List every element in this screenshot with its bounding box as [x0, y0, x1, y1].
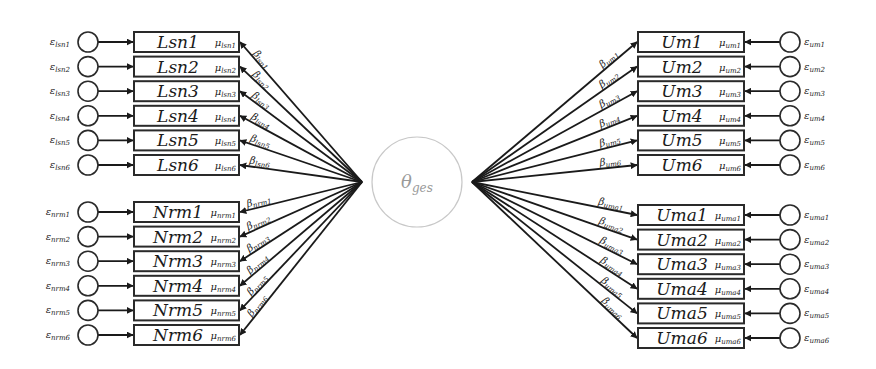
error-label: εnrm2	[46, 231, 71, 244]
error-label: εuma3	[804, 258, 830, 271]
indicator-label: Um3	[661, 81, 702, 101]
error-circle	[78, 32, 98, 52]
indicator-nrm3: Nrm3μnrm3εnrm3	[46, 251, 239, 271]
error-label: εnrm1	[46, 206, 70, 219]
error-label: εlsn3	[50, 85, 71, 98]
error-circle	[78, 202, 98, 222]
indicator-nrm4: Nrm4μnrm4εnrm4	[46, 276, 239, 296]
loading-label: βnrm6	[244, 292, 271, 321]
error-label: εuma4	[804, 283, 829, 296]
loading-label: βuma5	[597, 274, 626, 301]
indicator-um5: Um5μum5εum5	[638, 130, 826, 150]
indicator-uma3: Uma3μuma3εuma3	[638, 254, 830, 274]
indicator-label: Lsn5	[156, 130, 199, 150]
indicator-um4: Um4μum4εum4	[638, 106, 825, 126]
error-circle	[780, 81, 800, 101]
indicator-label: Lsn4	[156, 106, 199, 126]
indicator-label: Um1	[661, 32, 702, 52]
indicator-um3: Um3μum3εum3	[638, 81, 826, 101]
error-label: εnrm4	[46, 280, 70, 293]
indicator-um1: Um1μum1εum1	[638, 32, 825, 52]
indicator-um2: Um2μum2εum2	[638, 57, 826, 77]
indicator-lsn6: Lsn6μlsn6εlsn6	[50, 155, 239, 175]
error-label: εum4	[804, 110, 825, 123]
error-label: εuma2	[804, 234, 830, 247]
error-label: εnrm5	[46, 304, 71, 317]
indicator-label: Lsn6	[156, 155, 199, 175]
error-circle	[780, 106, 800, 126]
indicator-nrm2: Nrm2μnrm2εnrm2	[46, 227, 239, 247]
error-label: εum6	[804, 159, 826, 172]
error-label: εlsn6	[50, 159, 71, 172]
indicator-uma1: Uma1μuma1εuma1	[638, 205, 829, 225]
error-label: εlsn4	[50, 110, 70, 123]
loading-label: βum5	[597, 133, 622, 151]
indicator-lsn3: Lsn3μlsn3εlsn3	[50, 81, 239, 101]
error-label: εlsn1	[50, 36, 70, 49]
error-label: εum3	[804, 85, 826, 98]
indicator-label: Nrm2	[152, 227, 203, 247]
error-label: εuma5	[804, 307, 830, 320]
loading-label: βnrm3	[243, 231, 272, 256]
indicator-label: Uma6	[656, 328, 708, 348]
indicator-label: Uma1	[656, 205, 707, 225]
indicator-label: Nrm6	[152, 325, 203, 345]
indicator-um6: Um6μum6εum6	[638, 155, 826, 175]
loading-label: βlsn6	[248, 154, 272, 170]
indicator-label: Lsn1	[156, 32, 199, 52]
error-label: εuma6	[804, 332, 830, 345]
indicator-label: Uma2	[656, 230, 707, 250]
error-circle	[780, 130, 800, 150]
sem-diagram: βlsn1βlsn2βlsn3βlsn4βlsn5βlsn6βnrm1βnrm2…	[0, 0, 876, 369]
loading-label: βnrm5	[244, 271, 272, 299]
error-circle	[78, 57, 98, 77]
indicator-uma2: Uma2μuma2εuma2	[638, 230, 830, 250]
indicator-label: Uma4	[656, 279, 707, 299]
indicator-lsn4: Lsn4μlsn4εlsn4	[50, 106, 239, 126]
indicator-lsn5: Lsn5μlsn5εlsn5	[50, 130, 239, 150]
indicator-label: Nrm3	[152, 251, 203, 271]
indicator-label: Um5	[661, 130, 702, 150]
error-label: εum2	[804, 61, 826, 74]
error-circle	[780, 155, 800, 175]
error-circle	[78, 300, 98, 320]
error-circle	[780, 205, 800, 225]
loading-label: βlsn1	[249, 47, 273, 72]
error-circle	[78, 155, 98, 175]
loading-label: βum4	[596, 111, 622, 131]
loading-label: βuma2	[596, 214, 626, 235]
loading-label: βuma6	[598, 294, 627, 322]
error-label: εnrm3	[46, 255, 71, 268]
indicator-label: Nrm1	[152, 202, 203, 222]
error-circle	[780, 57, 800, 77]
indicator-label: Nrm5	[152, 300, 203, 320]
indicator-label: Lsn3	[156, 81, 199, 101]
loading-label: βum1	[596, 48, 621, 72]
indicator-nrm5: Nrm5μnrm5εnrm5	[46, 300, 239, 320]
error-circle	[780, 32, 800, 52]
indicator-lsn2: Lsn2μlsn2εlsn2	[50, 57, 239, 77]
loading-label: βlsn2	[249, 68, 274, 93]
indicator-label: Uma3	[656, 254, 707, 274]
error-circle	[780, 303, 800, 323]
error-label: εum5	[804, 134, 826, 147]
latent-factor: θges	[372, 137, 462, 227]
error-circle	[78, 251, 98, 271]
error-label: εlsn2	[50, 61, 71, 74]
indicator-uma5: Uma5μuma5εuma5	[638, 303, 830, 323]
loading-label: βnrm2	[244, 211, 273, 234]
indicator-label: Um6	[661, 155, 702, 175]
indicator-label: Lsn2	[156, 57, 199, 77]
loading-label: βum2	[596, 68, 622, 92]
indicator-nrm6: Nrm6μnrm6εnrm6	[46, 325, 239, 345]
error-circle	[780, 230, 800, 250]
error-circle	[780, 254, 800, 274]
loading-label: βum6	[598, 155, 622, 170]
error-circle	[78, 325, 98, 345]
error-circle	[780, 279, 800, 299]
indicator-label: Um2	[661, 57, 702, 77]
error-label: εum1	[804, 36, 825, 49]
error-circle	[78, 276, 98, 296]
error-circle	[78, 130, 98, 150]
error-circle	[78, 81, 98, 101]
